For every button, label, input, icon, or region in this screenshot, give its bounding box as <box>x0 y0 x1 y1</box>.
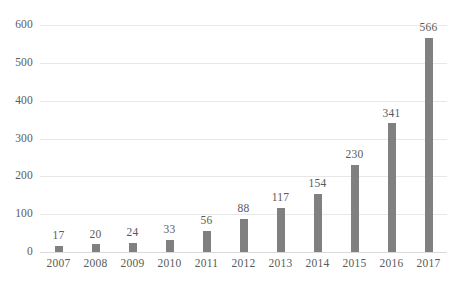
x-axis-category-label: 2010 <box>151 258 188 270</box>
bar-value-label: 117 <box>272 192 289 204</box>
bar-value-label: 566 <box>420 22 438 34</box>
x-axis-category-label: 2012 <box>225 258 262 270</box>
bars-container: 172024335688117154230341566 <box>40 25 447 252</box>
y-axis-tick-label: 300 <box>0 133 33 145</box>
x-axis-category-label: 2007 <box>40 258 77 270</box>
bar[interactable] <box>314 194 322 252</box>
x-axis-category-label: 2008 <box>77 258 114 270</box>
bar-slot: 17 <box>40 25 77 252</box>
bar-value-label: 24 <box>127 227 139 239</box>
bar[interactable] <box>425 38 433 252</box>
bar-slot: 24 <box>114 25 151 252</box>
bar-value-label: 17 <box>53 230 65 242</box>
bar-slot: 33 <box>151 25 188 252</box>
bar[interactable] <box>55 246 63 252</box>
bar-slot: 20 <box>77 25 114 252</box>
bar-slot: 230 <box>336 25 373 252</box>
bar-value-label: 33 <box>164 224 176 236</box>
bar-slot: 56 <box>188 25 225 252</box>
x-axis-category-label: 2014 <box>299 258 336 270</box>
bar[interactable] <box>203 231 211 252</box>
bar-value-label: 230 <box>346 149 364 161</box>
x-axis-category-label: 2013 <box>262 258 299 270</box>
bar-value-label: 88 <box>238 203 250 215</box>
y-axis-tick-label: 600 <box>0 19 33 31</box>
x-axis: 2007200820092010201120122013201420152016… <box>40 258 447 270</box>
bar-slot: 117 <box>262 25 299 252</box>
x-axis-category-label: 2016 <box>373 258 410 270</box>
x-axis-category-label: 2009 <box>114 258 151 270</box>
bar[interactable] <box>277 208 285 252</box>
x-axis-category-label: 2017 <box>410 258 447 270</box>
x-axis-category-label: 2011 <box>188 258 225 270</box>
axis-baseline <box>40 252 447 253</box>
bar[interactable] <box>240 219 248 252</box>
bar-value-label: 56 <box>201 215 213 227</box>
bar-slot: 154 <box>299 25 336 252</box>
bar-slot: 566 <box>410 25 447 252</box>
y-axis-tick-label: 0 <box>0 246 33 258</box>
bar[interactable] <box>92 244 100 252</box>
bar-chart: 0100200300400500600 17202433568811715423… <box>0 0 455 283</box>
bar[interactable] <box>388 123 396 252</box>
y-axis-tick-label: 200 <box>0 171 33 183</box>
bar[interactable] <box>166 240 174 252</box>
bar[interactable] <box>351 165 359 252</box>
y-axis-tick-label: 500 <box>0 57 33 69</box>
y-axis-tick-label: 400 <box>0 95 33 107</box>
bar-value-label: 20 <box>90 229 102 241</box>
bar-value-label: 154 <box>309 178 327 190</box>
bar-slot: 88 <box>225 25 262 252</box>
y-axis-tick-label: 100 <box>0 208 33 220</box>
x-axis-category-label: 2015 <box>336 258 373 270</box>
bar[interactable] <box>129 243 137 252</box>
bar-slot: 341 <box>373 25 410 252</box>
bar-value-label: 341 <box>383 108 401 120</box>
